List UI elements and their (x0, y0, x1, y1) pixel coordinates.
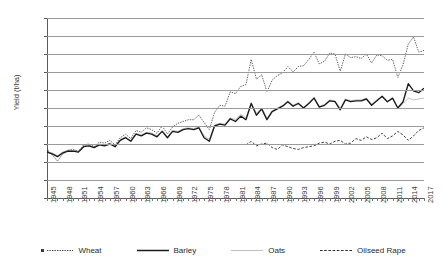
x-tick-mark (246, 198, 247, 201)
x-tick-mark (199, 198, 200, 201)
x-tick-mark (167, 198, 168, 201)
legend-label: Barley (174, 246, 197, 255)
x-tick-mark (220, 198, 221, 201)
legend-swatch-wheat (40, 246, 74, 255)
legend-item-barley[interactable]: Barley (136, 246, 197, 255)
x-tick-mark (398, 198, 399, 201)
yield-line-chart: Yield (t/ha) 012345678910 19451948195119… (0, 0, 446, 270)
x-tick-mark (236, 198, 237, 201)
x-tick-mark (63, 198, 64, 201)
x-tick-mark (366, 198, 367, 201)
x-tick-mark (68, 198, 69, 201)
x-tick-mark (288, 198, 289, 201)
x-tick-mark (73, 198, 74, 201)
x-tick-mark (351, 198, 352, 201)
x-tick-mark (99, 198, 100, 201)
x-tick-mark (340, 198, 341, 201)
x-tick-mark (136, 198, 137, 201)
gridline (47, 126, 424, 127)
x-tick-mark (215, 198, 216, 201)
x-tick-mark (157, 198, 158, 201)
x-tick-mark (52, 198, 53, 201)
x-tick-mark (325, 198, 326, 201)
x-tick-mark (146, 198, 147, 201)
x-tick-mark (304, 198, 305, 201)
x-tick-mark (225, 198, 226, 201)
x-tick-mark (105, 198, 106, 201)
gridline (47, 162, 424, 163)
x-tick-mark (110, 198, 111, 201)
gridline (47, 180, 424, 181)
x-tick-mark (330, 198, 331, 201)
x-tick-mark (314, 198, 315, 201)
series-line-oilseed-rape (246, 128, 424, 150)
x-tick-mark (382, 198, 383, 201)
x-tick-mark (272, 198, 273, 201)
x-tick-mark (194, 198, 195, 201)
gridline (47, 108, 424, 109)
x-tick-mark (162, 198, 163, 201)
x-tick-mark (131, 198, 132, 201)
legend-label: Wheat (78, 246, 101, 255)
legend-item-oilseed-rape[interactable]: Oilseed Rape (319, 246, 405, 255)
x-tick-mark (89, 198, 90, 201)
x-tick-mark (126, 198, 127, 201)
x-tick-mark (277, 198, 278, 201)
x-tick-mark (256, 198, 257, 201)
x-tick-mark (173, 198, 174, 201)
x-tick-mark (309, 198, 310, 201)
x-tick-mark (241, 198, 242, 201)
x-tick-mark (120, 198, 121, 201)
gridline (47, 144, 424, 145)
gridline (47, 72, 424, 73)
x-tick-label: 2017 (427, 186, 435, 203)
x-tick-mark (267, 198, 268, 201)
x-tick-mark (319, 198, 320, 201)
x-tick-mark (372, 198, 373, 201)
x-tick-mark (356, 198, 357, 201)
legend-item-oats[interactable]: Oats (230, 246, 285, 255)
x-tick-mark (414, 198, 415, 201)
x-tick-mark (152, 198, 153, 201)
plot-area (47, 18, 424, 198)
x-tick-mark (419, 198, 420, 201)
x-tick-mark (393, 198, 394, 201)
legend-item-wheat[interactable]: Wheat (40, 246, 101, 255)
chart-legend: WheatBarleyOatsOilseed Rape (0, 246, 446, 255)
x-tick-mark (183, 198, 184, 201)
x-tick-mark (230, 198, 231, 201)
x-tick-mark (178, 198, 179, 201)
x-tick-mark (47, 198, 48, 201)
x-tick-mark (387, 198, 388, 201)
gridline (47, 18, 424, 19)
x-tick-mark (57, 198, 58, 201)
legend-swatch-oats (230, 246, 264, 255)
x-tick-mark (84, 198, 85, 201)
y-axis-title: Yield (t/ha) (12, 53, 21, 133)
x-tick-mark (94, 198, 95, 201)
gridline (47, 90, 424, 91)
x-tick-mark (377, 198, 378, 201)
x-tick-mark (115, 198, 116, 201)
x-tick-mark (209, 198, 210, 201)
x-tick-mark (262, 198, 263, 201)
legend-swatch-oilseed-rape (319, 246, 353, 255)
x-tick-mark (361, 198, 362, 201)
legend-swatch-barley (136, 246, 170, 255)
x-tick-mark (204, 198, 205, 201)
gridline (47, 36, 424, 37)
legend-label: Oilseed Rape (357, 246, 405, 255)
gridline (47, 54, 424, 55)
x-tick-mark (424, 198, 425, 201)
legend-label: Oats (268, 246, 285, 255)
x-tick-mark (283, 198, 284, 201)
x-tick-mark (335, 198, 336, 201)
x-tick-mark (403, 198, 404, 201)
x-tick-mark (293, 198, 294, 201)
